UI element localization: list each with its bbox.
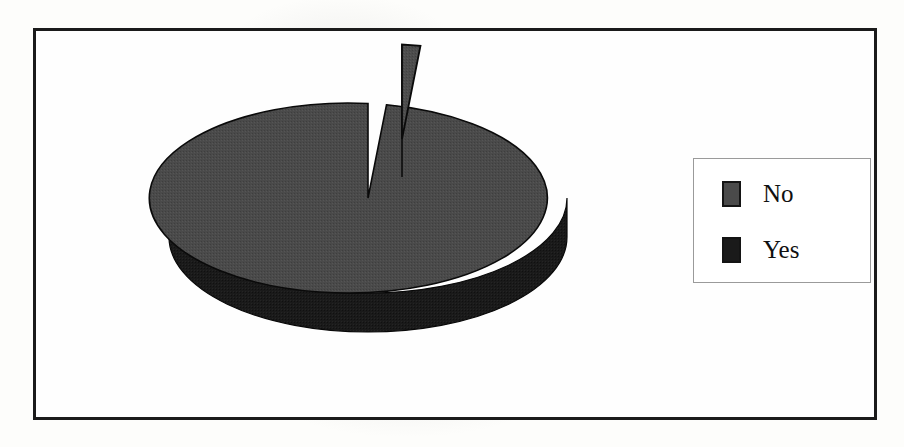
legend-item-no[interactable]: No xyxy=(722,181,794,207)
chart-frame: No Yes xyxy=(33,28,877,420)
legend-item-yes[interactable]: Yes xyxy=(722,237,799,263)
legend-label-no: No xyxy=(763,181,794,207)
legend-swatch-yes xyxy=(722,237,741,263)
screenshot-page: No Yes xyxy=(0,0,904,447)
legend-swatch-no xyxy=(722,181,741,207)
pie-slice-yes xyxy=(149,103,567,332)
pie-plot-area xyxy=(36,31,696,417)
chart-legend: No Yes xyxy=(693,158,871,283)
legend-label-yes: Yes xyxy=(763,237,799,263)
pie-top-face-yes xyxy=(149,103,547,293)
pie-chart-graphic xyxy=(36,31,696,417)
